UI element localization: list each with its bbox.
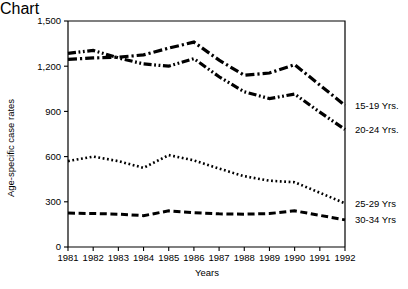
- series-labels-group: 15-19 Yrs.20-24 Yrs.25-29 Yrs30-34 Yrs: [355, 100, 399, 226]
- chart-figure: 03006009001,2001,500 1981198219831984198…: [0, 0, 408, 289]
- x-tick-label: 1990: [284, 252, 305, 263]
- series-line-1: [68, 42, 345, 105]
- y-tick-label: 600: [45, 151, 61, 162]
- y-tick-label: 300: [45, 196, 61, 207]
- x-tick-label: 1983: [108, 252, 129, 263]
- data-series-group: [68, 42, 345, 220]
- line-chart: 03006009001,2001,500 1981198219831984198…: [0, 0, 408, 289]
- x-tick-label: 1982: [83, 252, 104, 263]
- x-tick-label: 1991: [309, 252, 330, 263]
- x-tick-label: 1988: [234, 252, 255, 263]
- x-tick-label: 1984: [133, 252, 154, 263]
- x-tick-label: 1989: [259, 252, 280, 263]
- y-tick-label: 1,200: [37, 61, 61, 72]
- series-label-1: 15-19 Yrs.: [355, 100, 399, 111]
- series-label-2: 20-24 Yrs.: [355, 124, 399, 135]
- y-tick-label: 900: [45, 106, 61, 117]
- series-line-3: [68, 155, 345, 203]
- y-tick-label: 0: [56, 241, 61, 252]
- x-tick-label: 1987: [209, 252, 230, 263]
- x-tick-label: 1986: [183, 252, 204, 263]
- x-tick-label: 1985: [158, 252, 179, 263]
- series-label-4: 30-34 Yrs: [355, 214, 396, 225]
- y-axis-tick-labels: 03006009001,2001,500: [37, 15, 61, 252]
- x-tick-label: 1981: [57, 252, 78, 263]
- series-line-2: [68, 50, 345, 129]
- series-line-4: [68, 211, 345, 220]
- series-label-3: 25-29 Yrs: [355, 198, 396, 209]
- x-axis-title: Years: [195, 267, 219, 278]
- x-axis-tick-labels: 1981198219831984198519861987198819891990…: [57, 252, 355, 263]
- x-tick-label: 1992: [334, 252, 355, 263]
- y-axis-title: Age-specific case rates: [5, 99, 16, 197]
- y-tick-label: 1,500: [37, 15, 61, 26]
